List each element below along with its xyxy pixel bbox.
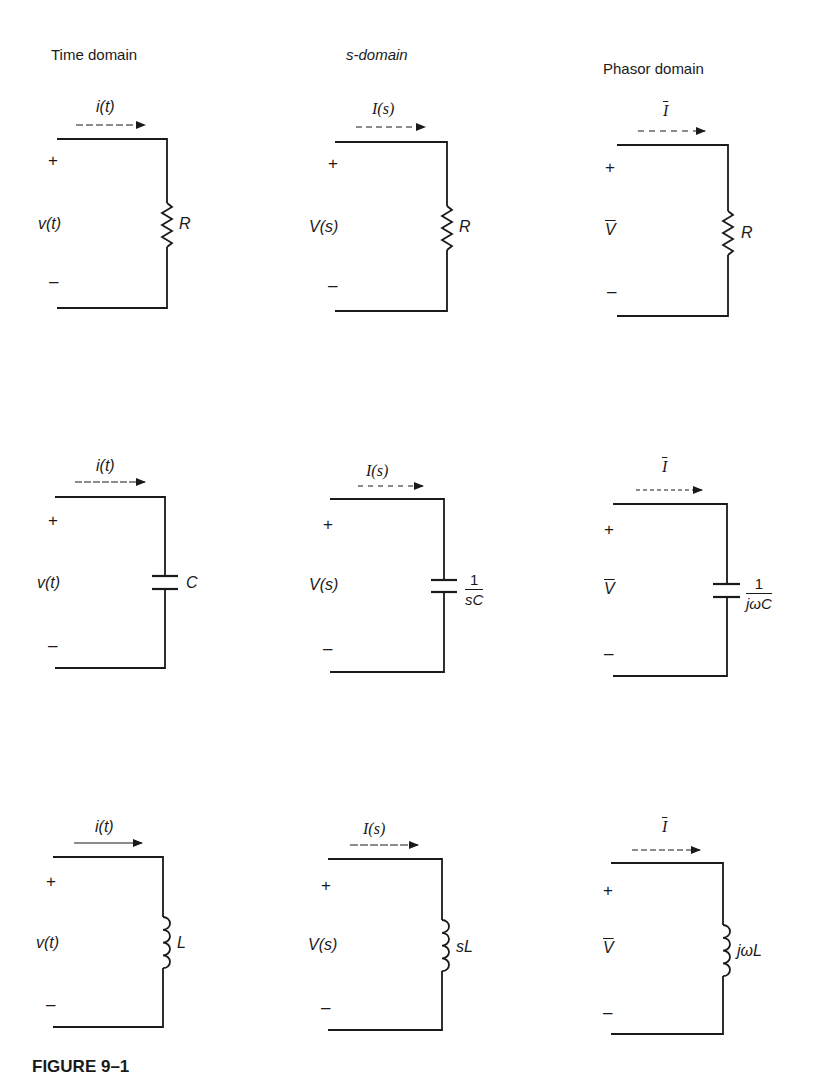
current-label-time: i(t)	[96, 457, 115, 475]
capacitor-icon	[152, 576, 178, 589]
resistor-icon	[723, 211, 733, 255]
voltage-label-time: v(t)	[36, 934, 59, 952]
minus-sign: –	[48, 636, 57, 656]
impedance-label-R-phasor: R	[741, 224, 753, 242]
resistor-circuit-time	[57, 125, 172, 308]
minus-sign: –	[323, 639, 332, 659]
impedance-label-R-time: R	[179, 215, 191, 233]
resistor-icon	[162, 203, 172, 247]
plus-sign: +	[328, 154, 338, 174]
impedance-label-1-over-jwC: 1 jωC	[746, 575, 772, 612]
minus-sign: –	[607, 282, 616, 302]
heading-phasor-domain: Phasor domain	[603, 60, 704, 77]
plus-sign: +	[321, 876, 331, 896]
inductor-circuit-phasor	[611, 850, 730, 1034]
voltage-phasor-label: V	[605, 221, 616, 239]
resistor-circuit-s	[335, 127, 452, 311]
capacitor-circuit-time	[55, 482, 178, 668]
current-phasor-label: I	[663, 102, 668, 120]
inductor-circuit-time	[53, 843, 170, 1027]
plus-sign: +	[48, 151, 58, 171]
voltage-label-s: V(s)	[309, 576, 338, 594]
current-label-s: I(s)	[366, 462, 388, 480]
impedance-label-jwL: jωL	[737, 942, 762, 960]
heading-time-domain: Time domain	[51, 46, 137, 63]
circuit-diagram-canvas	[0, 0, 832, 1080]
impedance-label-R-s: R	[459, 218, 471, 236]
plus-sign: +	[48, 511, 58, 531]
inductor-icon	[723, 925, 730, 976]
impedance-label-C-time: C	[186, 574, 198, 592]
current-label-s: I(s)	[372, 100, 394, 118]
fraction-numerator: 1	[746, 575, 772, 594]
impedance-label-L-time: L	[177, 934, 186, 952]
current-phasor-label: I	[662, 458, 667, 476]
plus-sign: +	[605, 158, 615, 178]
current-label-time: i(t)	[95, 818, 114, 836]
fraction-numerator: 1	[465, 571, 483, 590]
impedance-label-sL: sL	[456, 938, 473, 956]
minus-sign: –	[604, 644, 613, 664]
figure-caption: FIGURE 9–1	[32, 1057, 129, 1077]
voltage-phasor-label: V	[604, 580, 615, 598]
fraction-denominator: jωC	[746, 594, 772, 612]
minus-sign: –	[321, 998, 330, 1018]
capacitor-circuit-phasor	[613, 490, 740, 676]
voltage-label-s: V(s)	[309, 218, 338, 236]
capacitor-circuit-s	[330, 486, 457, 672]
inductor-icon	[163, 917, 170, 968]
current-phasor-label: I	[662, 818, 667, 836]
voltage-label-time: v(t)	[37, 574, 60, 592]
plus-sign: +	[323, 515, 333, 535]
minus-sign: –	[46, 995, 55, 1015]
heading-s-domain-text: s-domain	[346, 46, 408, 63]
plus-sign: +	[46, 872, 56, 892]
minus-sign: –	[328, 276, 337, 296]
plus-sign: +	[603, 881, 613, 901]
minus-sign: –	[49, 272, 58, 292]
capacitor-icon	[431, 580, 457, 592]
inductor-circuit-s	[328, 845, 449, 1030]
fraction-denominator: sC	[465, 590, 483, 608]
plus-sign: +	[604, 520, 614, 540]
voltage-phasor-label: V	[603, 939, 614, 957]
current-label-s: I(s)	[363, 820, 385, 838]
current-label-time: i(t)	[96, 98, 115, 116]
resistor-circuit-phasor	[617, 131, 733, 316]
capacitor-icon	[713, 584, 740, 597]
voltage-label-time: v(t)	[38, 215, 61, 233]
minus-sign: –	[603, 1003, 612, 1023]
inductor-icon	[442, 920, 449, 971]
impedance-label-1-over-sC: 1 sC	[465, 571, 483, 608]
resistor-icon	[442, 206, 452, 250]
voltage-label-s: V(s)	[308, 936, 337, 954]
heading-s-domain: s-domain	[346, 46, 408, 63]
